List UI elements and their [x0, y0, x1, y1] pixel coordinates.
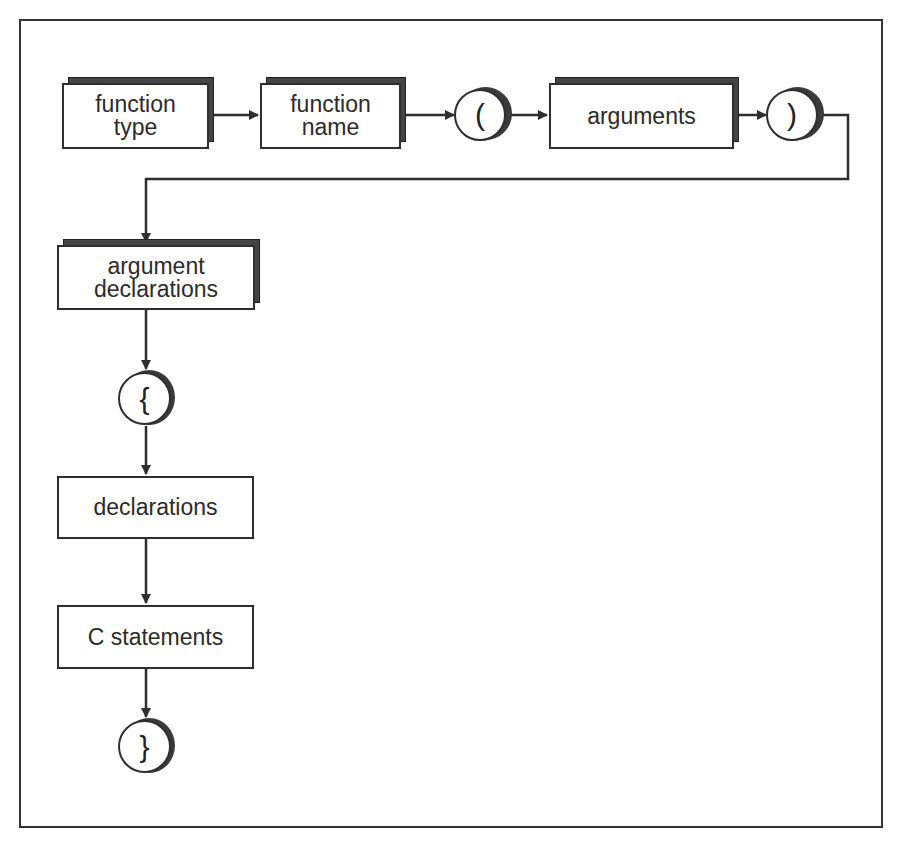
- node-c-statements: C statements: [57, 605, 254, 669]
- node-label: function type: [95, 93, 176, 139]
- terminal-label: ): [787, 98, 797, 132]
- node-function-type: function type: [62, 83, 209, 149]
- node-label: C statements: [88, 626, 224, 649]
- terminal-close-brace: }: [118, 720, 171, 773]
- terminal-close-paren: ): [766, 89, 818, 141]
- terminal-label: {: [139, 382, 149, 416]
- node-declarations: declarations: [57, 476, 254, 539]
- terminal-label: }: [139, 730, 149, 764]
- node-arguments: arguments: [549, 83, 734, 149]
- node-function-name: function name: [260, 83, 401, 149]
- terminal-label: (: [475, 98, 485, 132]
- node-label: declarations: [93, 496, 217, 519]
- node-label: argument declarations: [94, 255, 218, 301]
- node-label: arguments: [587, 105, 696, 128]
- terminal-open-brace: {: [118, 372, 171, 425]
- node-argument-declarations: argument declarations: [57, 245, 255, 310]
- terminal-open-paren: (: [454, 89, 506, 141]
- node-label: function name: [290, 93, 371, 139]
